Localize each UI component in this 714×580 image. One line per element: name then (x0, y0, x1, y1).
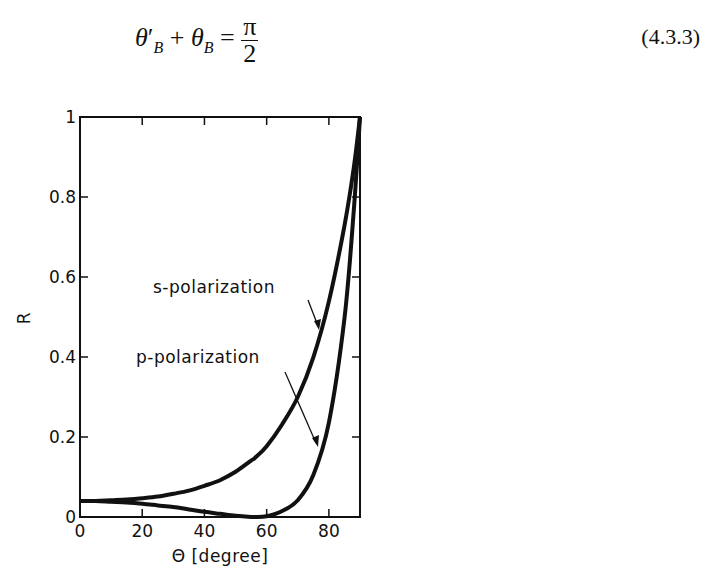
x-tick-label: 20 (131, 521, 153, 541)
annotation-p-polarization: p-polarization (136, 347, 260, 367)
y-tick-label: 0.4 (49, 347, 76, 367)
x-axis-label: Θ [degree] (172, 546, 269, 566)
x-tick-label: 40 (194, 521, 216, 541)
annotation-s-polarization: s-polarization (153, 277, 275, 297)
y-tick-label: 0.8 (49, 187, 76, 207)
y-tick-label: 0.6 (49, 267, 76, 287)
y-axis-label: R (14, 312, 34, 324)
series-p-polarization (80, 117, 360, 517)
x-tick-label: 80 (318, 521, 340, 541)
arrow-p (285, 372, 316, 443)
x-tick-label: 60 (256, 521, 278, 541)
x-tick-label: 0 (75, 521, 86, 541)
reflectance-chart: 02040608000.20.40.60.81Θ [degree]Rs-pola… (0, 0, 714, 580)
y-tick-label: 0 (65, 507, 76, 527)
y-tick-label: 0.2 (49, 427, 76, 447)
y-tick-label: 1 (65, 107, 76, 127)
